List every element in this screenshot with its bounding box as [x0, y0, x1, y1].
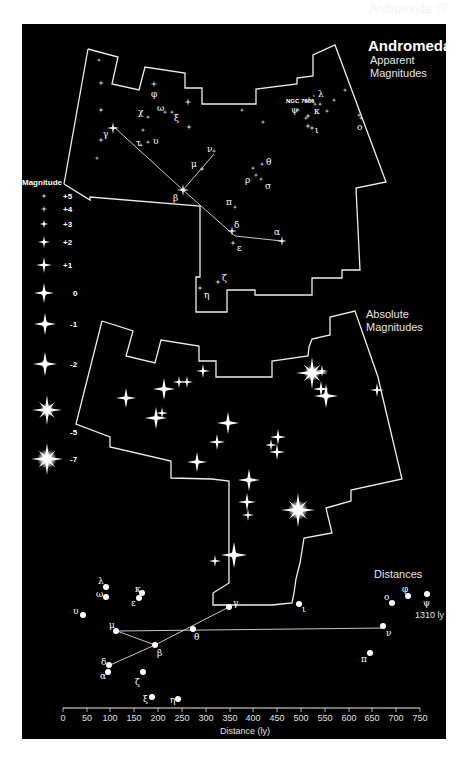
label-zeta: ζ — [222, 273, 227, 283]
magnitude-legend: Magnitude +5 +4 +3 +2 +1 0 -1 -2 -5 -7 — [22, 178, 78, 476]
absolute-boundary — [76, 311, 402, 605]
axis-tick: 300 — [198, 713, 213, 723]
absolute-label-2: Magnitudes — [366, 321, 423, 333]
dlabel-pi: π — [361, 654, 367, 664]
legend-entry: +5 — [63, 192, 73, 201]
label-chi: χ — [138, 107, 144, 117]
axis-tick: 450 — [269, 713, 284, 723]
dlabel-psi: ψ — [423, 598, 430, 608]
axis-tick: 600 — [341, 713, 356, 723]
dlabel-eta: η — [170, 695, 175, 705]
label-tau: τ — [136, 138, 141, 148]
label-omicron: ο — [357, 122, 362, 132]
dlabel-omega: ω — [96, 589, 103, 599]
axis-tick: 250 — [174, 713, 189, 723]
label-upsilon: υ — [153, 136, 159, 146]
label-beta: β — [173, 193, 178, 203]
page-header-title: Andromeda — [369, 2, 431, 16]
label-nu: ν — [207, 144, 212, 154]
apparent-label-2: Magnitudes — [370, 67, 427, 79]
axis-tick: 650 — [364, 713, 379, 723]
figure-canvas: Andromeda Apparent Magnitudes — [22, 24, 446, 739]
absolute-stars — [116, 356, 384, 568]
label-epsilon: ε — [237, 243, 242, 253]
dlabel-phi: φ — [402, 584, 408, 594]
dlabel-nu: ν — [386, 628, 391, 638]
label-iota: ι — [315, 125, 319, 135]
legend-entry: -5 — [70, 428, 78, 437]
dlabel-beta: β — [157, 648, 162, 658]
axis-tick: 200 — [150, 713, 165, 723]
apparent-boundary — [64, 45, 386, 312]
legend-entry: -1 — [70, 320, 78, 329]
axis-label: Distance (ly) — [220, 726, 270, 736]
dlabel-delta: δ — [101, 657, 106, 667]
axis-tick: 700 — [388, 713, 403, 723]
page-header: Andromeda 27 — [369, 2, 448, 16]
dlabel-upsilon: υ — [73, 606, 79, 616]
distance-labels: υ λ ω κ ε μ β θ γ δ α ζ ξ η ι ν π ο φ ψ … — [73, 576, 445, 705]
axis-tick: 500 — [293, 713, 308, 723]
label-psi: ψ — [291, 105, 298, 115]
label-mu: μ — [191, 159, 197, 169]
psi-distance-note: 1310 ly — [415, 610, 445, 620]
label-phi: φ — [151, 89, 157, 99]
axis-tick: 150 — [126, 713, 141, 723]
apparent-labels: φ χ ω ξ γ τ υ ν μ β θ ρ σ π δ ε α ζ η NG… — [103, 89, 362, 300]
dlabel-zeta: ζ — [135, 677, 140, 687]
figure-title: Andromeda — [368, 37, 446, 54]
dlabel-xi: ξ — [143, 694, 148, 704]
label-kappa: κ — [314, 106, 320, 116]
figure-title-group: Andromeda Apparent Magnitudes — [368, 37, 446, 79]
axis-tick: 400 — [245, 713, 260, 723]
label-alpha: α — [274, 227, 280, 237]
axis-tick: 550 — [317, 713, 332, 723]
legend-entry: +2 — [63, 238, 73, 247]
dlabel-iota: ι — [302, 604, 306, 614]
legend-entry: +3 — [63, 220, 73, 229]
axis-tick: 0 — [60, 713, 65, 723]
label-rho: ρ — [245, 175, 250, 185]
axis-tick: 750 — [412, 713, 427, 723]
dlabel-kappa: κ — [135, 584, 141, 594]
distance-axis: 0 50 100 150 200 250 300 350 400 450 500… — [60, 708, 427, 736]
legend-entry: 0 — [73, 289, 78, 298]
legend-entry: +4 — [63, 205, 73, 214]
legend-entry: +1 — [63, 261, 73, 270]
apparent-label-1: Apparent — [370, 54, 415, 66]
legend-entry: -2 — [70, 360, 78, 369]
label-pi: π — [226, 197, 232, 207]
label-delta: δ — [234, 220, 239, 230]
dlabel-epsilon: ε — [131, 598, 136, 608]
label-lambda: λ — [318, 89, 324, 99]
andromeda-figure: Andromeda Apparent Magnitudes — [22, 24, 446, 739]
dlabel-gamma: γ — [233, 598, 238, 608]
dlabel-alpha: α — [100, 671, 106, 681]
legend-entry: -7 — [70, 455, 78, 464]
label-theta: θ — [266, 157, 271, 167]
label-xi: ξ — [174, 113, 179, 123]
page-number: 27 — [435, 2, 448, 16]
legend-title: Magnitude — [22, 178, 63, 187]
label-eta: η — [204, 290, 209, 300]
absolute-label-1: Absolute — [366, 308, 409, 320]
axis-tick: 100 — [102, 713, 117, 723]
label-omega: ω — [157, 103, 164, 113]
label-gamma: γ — [103, 129, 108, 139]
label-sigma: σ — [265, 181, 271, 191]
distances-label: Distances — [374, 568, 423, 580]
label-ngc7686: NGC 7686 — [286, 98, 315, 104]
dlabel-lambda: λ — [98, 576, 104, 586]
axis-tick: 350 — [222, 713, 237, 723]
dlabel-mu: μ — [109, 620, 115, 630]
distance-stick-figure — [108, 607, 385, 666]
axis-tick: 50 — [82, 713, 92, 723]
dlabel-theta: θ — [194, 632, 199, 642]
dlabel-omicron: ο — [384, 592, 389, 602]
